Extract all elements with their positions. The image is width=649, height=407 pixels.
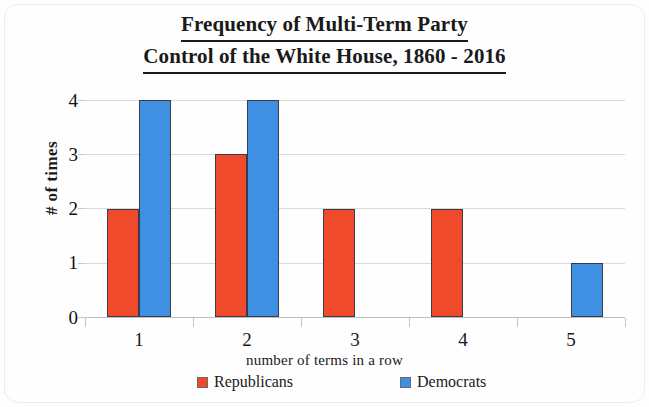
- legend-swatch-icon-democrats: [400, 377, 411, 388]
- chart-figure: Frequency of Multi-Term Party Control of…: [0, 0, 649, 407]
- y-tick-label-3: 3: [52, 145, 78, 164]
- legend-item-republicans: Republicans: [197, 374, 293, 390]
- x-tick-5: [625, 318, 626, 327]
- legend-swatch-icon-republicans: [197, 377, 208, 388]
- y-tick-label-4: 4: [52, 91, 78, 110]
- y-tick-label-1: 1: [52, 253, 78, 272]
- x-tick-label-1: 1: [85, 330, 193, 349]
- x-tick-3: [409, 318, 410, 327]
- chart-legend: Republicans Democrats: [0, 374, 649, 398]
- y-axis-tick-labels: 4 3 2 1 0: [44, 0, 78, 407]
- y-tick-mark-1: [78, 263, 85, 264]
- legend-item-democrats: Democrats: [400, 374, 486, 390]
- x-tick-0: [85, 318, 86, 327]
- y-tick-mark-4: [78, 100, 85, 101]
- bar-democrats-5: [571, 263, 603, 317]
- y-tick-label-2: 2: [52, 199, 78, 218]
- x-tick-4: [517, 318, 518, 327]
- plot-area: [85, 100, 625, 317]
- y-tick-mark-0: [78, 317, 85, 318]
- y-tick-label-0: 0: [52, 308, 78, 327]
- x-axis-line: [85, 317, 625, 318]
- y-tick-mark-2: [78, 208, 85, 209]
- bar-republicans-4: [431, 209, 463, 318]
- x-tick-label-5: 5: [517, 330, 625, 349]
- bar-republicans-3: [323, 209, 355, 318]
- x-tick-1: [193, 318, 194, 327]
- bar-democrats-1: [139, 100, 171, 317]
- bar-republicans-1: [107, 209, 139, 318]
- bar-republicans-2: [215, 154, 247, 317]
- x-tick-label-3: 3: [301, 330, 409, 349]
- x-axis-title: number of terms in a row: [0, 352, 649, 369]
- chart-title-line-2: Control of the White House, 1860 - 2016: [143, 42, 505, 74]
- y-tick-mark-3: [78, 154, 85, 155]
- bar-democrats-2: [247, 100, 279, 317]
- x-tick-label-2: 2: [193, 330, 301, 349]
- chart-title-line-1: Frequency of Multi-Term Party: [181, 10, 468, 42]
- legend-label-republicans: Republicans: [214, 374, 293, 390]
- x-tick-2: [301, 318, 302, 327]
- legend-label-democrats: Democrats: [417, 374, 486, 390]
- chart-title: Frequency of Multi-Term Party Control of…: [0, 10, 649, 74]
- x-tick-label-4: 4: [409, 330, 517, 349]
